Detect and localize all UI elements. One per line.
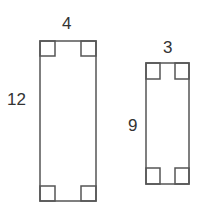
right-angle-marker-top-right (175, 63, 189, 79)
right-angle-marker-top-right (81, 41, 96, 56)
right-angle-marker-bottom-right (81, 186, 96, 201)
right-angle-marker-top-left (146, 63, 160, 79)
diagram-canvas (0, 0, 209, 212)
large-height-label: 12 (7, 91, 26, 108)
small-width-label: 3 (163, 39, 172, 56)
right-angle-marker-top-left (40, 41, 55, 56)
small-height-label: 9 (128, 117, 137, 134)
small-rectangle (146, 63, 189, 184)
right-angle-marker-bottom-left (40, 186, 55, 201)
large-rectangle (40, 41, 96, 201)
right-angle-marker-bottom-left (146, 168, 160, 184)
right-angle-marker-bottom-right (175, 168, 189, 184)
large-width-label: 4 (62, 15, 71, 32)
